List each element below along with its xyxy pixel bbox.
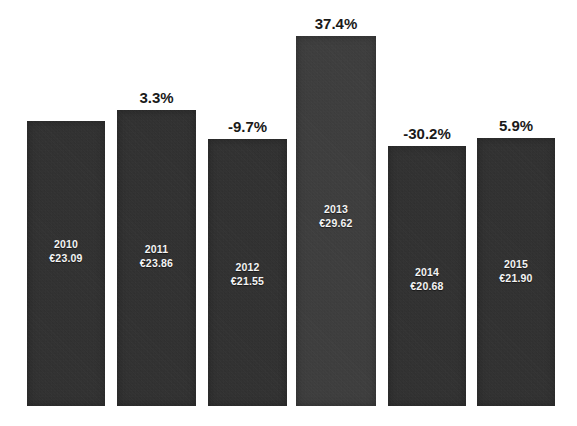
bar-year-2012: 2012 <box>208 260 287 274</box>
bar-group-2013: 37.4% 2013 €29.62 <box>296 36 376 406</box>
bar-year-2015: 2015 <box>477 257 555 271</box>
bar-inner-label-2013: 2013 €29.62 <box>296 202 376 230</box>
bar-year-2010: 2010 <box>27 237 105 251</box>
bar-value-2012: €21.55 <box>208 274 287 288</box>
chart-plot-area: 2010 €23.09 3.3% 2011 €23.86 -9.7% 2012 … <box>0 0 577 426</box>
bar-inner-label-2010: 2010 €23.09 <box>27 237 105 265</box>
bar-group-2012: -9.7% 2012 €21.55 <box>208 139 287 406</box>
bar-group-2015: 5.9% 2015 €21.90 <box>477 138 555 406</box>
bar-inner-label-2014: 2014 €20.68 <box>388 265 466 293</box>
bar-chart: 2010 €23.09 3.3% 2011 €23.86 -9.7% 2012 … <box>0 0 577 426</box>
percent-label-2014: -30.2% <box>388 125 466 142</box>
bar-value-2014: €20.68 <box>388 279 466 293</box>
bar-year-2014: 2014 <box>388 265 466 279</box>
bar-inner-label-2011: 2011 €23.86 <box>117 242 196 270</box>
percent-label-2011: 3.3% <box>117 89 196 106</box>
bar-year-2011: 2011 <box>117 242 196 256</box>
bar-year-2013: 2013 <box>296 202 376 216</box>
bar-value-2015: €21.90 <box>477 271 555 285</box>
bar-inner-label-2015: 2015 €21.90 <box>477 257 555 285</box>
bar-inner-label-2012: 2012 €21.55 <box>208 260 287 288</box>
bar-group-2010: 2010 €23.09 <box>27 121 105 406</box>
bar-value-2011: €23.86 <box>117 256 196 270</box>
bar-group-2011: 3.3% 2011 €23.86 <box>117 110 196 406</box>
bar-value-2010: €23.09 <box>27 251 105 265</box>
bar-group-2014: -30.2% 2014 €20.68 <box>388 146 466 406</box>
percent-label-2013: 37.4% <box>296 15 376 32</box>
bar-value-2013: €29.62 <box>296 216 376 230</box>
percent-label-2015: 5.9% <box>477 117 555 134</box>
percent-label-2012: -9.7% <box>208 118 287 135</box>
